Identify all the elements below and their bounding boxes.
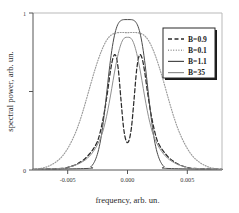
x-axis-title: frequency, arb. un. bbox=[95, 195, 159, 205]
legend-label-2: B=1.1 bbox=[188, 57, 207, 66]
y-tick-label-bottom: 0 bbox=[23, 167, 26, 174]
y-axis-title: spectral power, arb. un. bbox=[5, 51, 15, 131]
legend-label-1: B=0.1 bbox=[188, 46, 207, 55]
y-tick-label-top: 1 bbox=[23, 10, 26, 17]
x-tick-label-zero: 0.000 bbox=[121, 176, 135, 183]
y-axis-ticks: 1 0 bbox=[23, 10, 33, 174]
chart-figure: 1 0 -0.005 0.000 0.005 frequency, arb. u… bbox=[0, 0, 239, 213]
legend-label-3: B=35 bbox=[188, 68, 205, 77]
x-axis-ticks: -0.005 0.000 0.005 bbox=[60, 170, 195, 183]
legend-label-0: B=0.9 bbox=[188, 35, 207, 44]
x-tick-label-pos: 0.005 bbox=[180, 176, 194, 183]
legend[interactable]: B=0.9B=0.1B=1.1B=35 bbox=[163, 28, 217, 80]
spectral-power-plot: 1 0 -0.005 0.000 0.005 frequency, arb. u… bbox=[0, 0, 239, 213]
x-tick-label-neg: -0.005 bbox=[60, 176, 76, 183]
